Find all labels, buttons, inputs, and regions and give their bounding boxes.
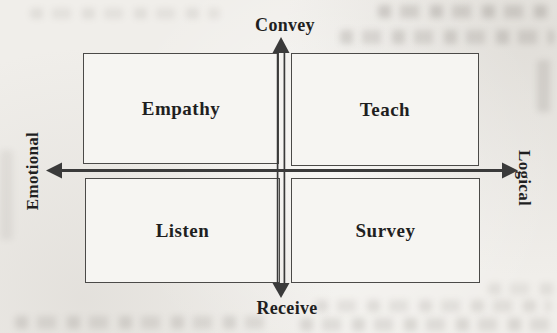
quadrant-bottom-right: Survey <box>291 178 480 283</box>
arrowhead-left-icon <box>46 163 62 179</box>
quadrant-label-teach: Teach <box>360 99 410 121</box>
axis-label-convey: Convey <box>235 15 335 36</box>
quadrant-top-left: Empathy <box>83 53 279 164</box>
quadrant-bottom-left: Listen <box>85 178 280 283</box>
scanned-page: Empathy Teach Listen Survey Convey Recei… <box>0 0 557 333</box>
bleed-through-smudge <box>378 5 550 18</box>
arrowhead-down-icon <box>273 283 290 298</box>
quadrant-top-right: Teach <box>291 53 479 166</box>
quadrant-label-listen: Listen <box>156 220 210 242</box>
arrowhead-up-icon <box>273 37 290 53</box>
quadrant-label-empathy: Empathy <box>142 98 220 120</box>
axis-label-emotional: Emotional <box>23 121 43 221</box>
bleed-through-smudge <box>30 8 220 19</box>
bleed-through-smudge <box>315 300 551 312</box>
axis-label-receive: Receive <box>237 298 337 319</box>
bleed-through-smudge <box>15 316 267 329</box>
bleed-through-smudge <box>488 283 554 295</box>
axis-label-logical: Logical <box>514 128 534 228</box>
bleed-through-smudge <box>0 150 13 240</box>
quadrant-label-survey: Survey <box>356 220 416 242</box>
bleed-through-smudge <box>340 30 554 44</box>
axes-arrows <box>0 0 557 333</box>
bleed-through-smudge <box>300 318 550 331</box>
bleed-through-smudge <box>537 60 557 112</box>
